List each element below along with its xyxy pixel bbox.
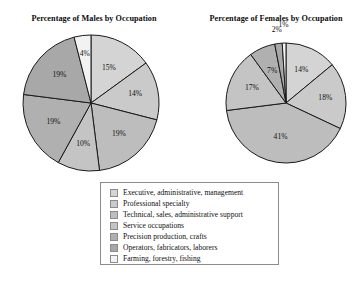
- occupation-legend: Executive, administrative, managementPro…: [100, 182, 279, 265]
- pie-slice-value-label: 7%: [267, 66, 278, 75]
- pie-slice-value-label: 4%: [80, 49, 91, 58]
- legend-item-label: Executive, administrative, management: [123, 188, 243, 198]
- legend-item[interactable]: Precision production, crafts: [110, 231, 278, 242]
- females-pie-slices: [226, 43, 346, 163]
- legend-item-label: Precision production, crafts: [123, 232, 207, 242]
- legend-item[interactable]: Operators, fabricators, laborers: [110, 242, 278, 253]
- males-chart-title: Percentage of Males by Occupation: [8, 14, 180, 23]
- males-pie-slices: [23, 35, 159, 171]
- females-pie-chart: 14%18%41%17%7%2%1%: [220, 38, 352, 168]
- pie-slice-value-label: 14%: [128, 89, 143, 98]
- legend-item-label: Farming, forestry, fishing: [123, 254, 201, 264]
- legend-swatch-icon: [110, 200, 118, 208]
- legend-item-label: Operators, fabricators, laborers: [123, 243, 217, 253]
- legend-item-label: Technical, sales, administrative support: [123, 210, 243, 220]
- females-chart-title: Percentage of Females by Occupation: [190, 14, 362, 23]
- pie-chart-figure: Percentage of Males by Occupation 15%14%…: [0, 0, 362, 294]
- males-pie-svg: 15%14%19%10%19%19%4%: [18, 32, 164, 174]
- pie-slice-value-label: 18%: [318, 93, 333, 102]
- pie-slice-value-label: 10%: [76, 139, 91, 148]
- pie-slice-value-label: 1%: [278, 20, 289, 29]
- legend-swatch-icon: [110, 222, 118, 230]
- pie-slice-value-label: 19%: [112, 129, 127, 138]
- legend-item-label: Professional specialty: [123, 199, 189, 209]
- pie-slice-value-label: 41%: [274, 132, 289, 141]
- pie-slice-value-label: 15%: [102, 63, 117, 72]
- males-pie-chart: 15%14%19%10%19%19%4%: [18, 32, 164, 174]
- legend-items-container: Executive, administrative, managementPro…: [110, 187, 278, 264]
- pie-slice-value-label: 14%: [294, 65, 309, 74]
- legend-swatch-icon: [110, 189, 118, 197]
- legend-item[interactable]: Technical, sales, administrative support: [110, 209, 278, 220]
- pie-slice-value-label: 19%: [52, 70, 67, 79]
- legend-swatch-icon: [110, 255, 118, 263]
- legend-swatch-icon: [110, 244, 118, 252]
- females-pie-svg: 14%18%41%17%7%2%1%: [220, 38, 352, 168]
- legend-item[interactable]: Service occupations: [110, 220, 278, 231]
- legend-item[interactable]: Farming, forestry, fishing: [110, 253, 278, 264]
- legend-item-label: Service occupations: [123, 221, 184, 231]
- pie-slice-value-label: 19%: [46, 117, 61, 126]
- legend-swatch-icon: [110, 211, 118, 219]
- legend-swatch-icon: [110, 233, 118, 241]
- pie-slice-value-label: 17%: [245, 83, 260, 92]
- legend-item[interactable]: Executive, administrative, management: [110, 187, 278, 198]
- legend-item[interactable]: Professional specialty: [110, 198, 278, 209]
